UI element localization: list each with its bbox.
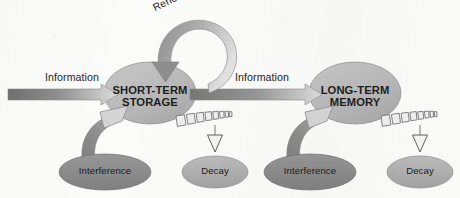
interference-right-arrowhead — [305, 106, 333, 128]
decay-left-arrow — [176, 111, 232, 152]
decay-right-arrowhead — [413, 135, 428, 152]
long-term-memory-label-line1: LONG-TERM — [305, 84, 405, 96]
short-term-storage-label: SHORT-TERM STORAGE — [100, 84, 200, 108]
decay-left-label: Decay — [185, 166, 245, 176]
diagram-canvas: SHORT-TERM STORAGE LONG-TERM MEMORY Info… — [0, 0, 460, 198]
decay-right-label: Decay — [390, 166, 450, 176]
interference-left-arrowhead — [100, 106, 128, 128]
interference-right-label: Interference — [260, 166, 360, 176]
short-term-storage-label-line2: STORAGE — [100, 96, 200, 108]
information-transfer-label: Information — [217, 72, 307, 83]
interference-left-label: Interference — [55, 166, 155, 176]
long-term-memory-label: LONG-TERM MEMORY — [305, 84, 405, 108]
decay-left-arrowhead — [208, 135, 223, 152]
long-term-memory-label-line2: MEMORY — [305, 96, 405, 108]
information-in-label: Information — [27, 72, 117, 83]
decay-right-arrow — [381, 111, 437, 152]
short-term-storage-label-line1: SHORT-TERM — [100, 84, 200, 96]
